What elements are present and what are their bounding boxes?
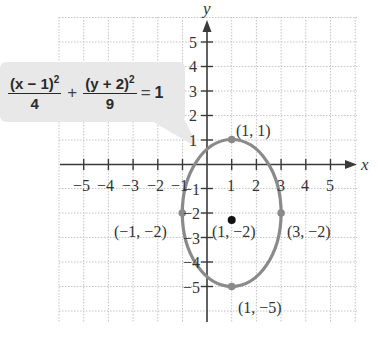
ellipse-graph: y x −5 −4 −3 −2 −1 1 2 3 4 5 5 4 3 2 1 −… [0,0,378,339]
axes-layer: y x −5 −4 −3 −2 −1 1 2 3 4 5 5 4 3 2 1 −… [0,0,378,339]
x-tick-labels: −5 −4 −3 −2 −1 1 2 3 4 5 [73,177,334,194]
x-tick-label: 3 [277,177,285,194]
x-tick-label: 5 [326,177,334,194]
x-term-denominator: 4 [31,94,39,112]
fraction-x-term: (x − 1)2 4 [8,74,61,112]
point-label-right: (3, −2) [287,223,331,241]
y-axis-arrow-icon [203,20,212,32]
y-tick-label: −5 [183,279,200,296]
x-term-numerator: (x − 1) [10,75,54,92]
vertex-right-point [277,209,285,217]
x-axis-arrow-icon [345,160,357,169]
y-term-numerator: (y + 2) [85,75,129,92]
y-tick-label: −4 [183,254,200,271]
x-axis-label: x [360,155,369,174]
y-term-exponent: 2 [129,74,135,85]
x-term-exponent: 2 [54,74,60,85]
point-label-left: (−1, −2) [114,223,167,241]
equation-rhs: 1 [155,84,164,102]
point-label-top: (1, 1) [236,122,271,140]
y-tick-label: 5 [189,34,197,51]
y-tick-label: −2 [183,205,200,222]
fraction-y-term: (y + 2)2 9 [83,74,136,112]
equals-sign: = [141,83,151,103]
y-tick-label: −3 [183,230,200,247]
plus-operator: + [67,83,77,103]
x-tick-label: −3 [122,177,139,194]
y-tick-label: 3 [189,83,197,100]
y-tick-label: −1 [183,181,200,198]
x-tick-label: −4 [97,177,114,194]
x-tick-label: −2 [147,177,164,194]
y-tick-label: 1 [189,132,197,149]
x-tick-label: 4 [301,177,309,194]
point-label-bottom: (1, −5) [238,299,282,317]
y-term-denominator: 9 [106,94,114,112]
vertex-bottom-point [228,283,236,291]
x-tick-label: 1 [227,177,235,194]
y-tick-label: 4 [189,58,197,75]
y-axis-label: y [201,0,211,18]
y-tick-label: 2 [189,107,197,124]
ellipse-equation: (x − 1)2 4 + (y + 2)2 9 = 1 [8,66,163,120]
x-tick-label: −5 [73,177,90,194]
x-tick-label: 2 [252,177,260,194]
point-label-center: (1, −2) [212,223,256,241]
vertex-top-point [228,136,236,144]
